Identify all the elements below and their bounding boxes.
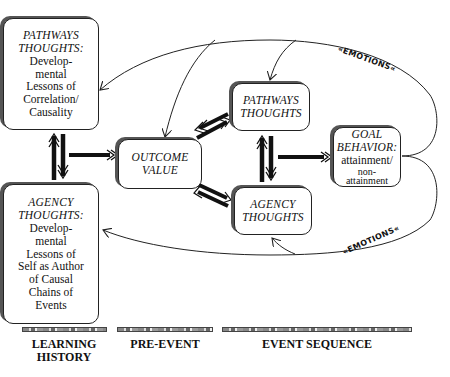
phase-label-pre-event: PRE-EVENT: [117, 338, 213, 351]
box-title: BEHAVIOR:: [337, 141, 398, 154]
pathways-thoughts-box: PATHWAYS THOUGHTS: [232, 83, 310, 131]
phase-label-line: HISTORY: [18, 351, 110, 364]
box-text: Lessons of: [26, 248, 76, 261]
phase-label-learning-history: LEARNING HISTORY: [18, 338, 110, 363]
learning-history-timeline-bar: [22, 327, 107, 332]
box-title: PATHWAYS: [243, 94, 299, 107]
box-title: VALUE: [142, 164, 178, 177]
box-title: THOUGHTS: [242, 211, 304, 224]
feedback-to-pathways: [270, 40, 296, 80]
agency-thoughts-box: AGENCY THOUGHTS: [234, 187, 312, 235]
box-text: attainment: [346, 176, 388, 186]
box-text: Lessons of: [26, 80, 76, 93]
pre-event-timeline-bar: [117, 327, 213, 332]
box-text: Events: [35, 299, 66, 312]
box-title: AGENCY: [250, 198, 295, 211]
box-text: mental: [35, 235, 66, 248]
hope-theory-diagram: PATHWAYS THOUGHTS: Develop- mental Lesso…: [0, 0, 450, 377]
pathways-thoughts-learning-box: PATHWAYS THOUGHTS: Develop- mental Lesso…: [3, 18, 99, 130]
box-title: THOUGHTS:: [18, 42, 84, 55]
feedback-to-agency: [272, 238, 295, 254]
box-title: AGENCY: [28, 196, 73, 209]
box-text: of Causal: [29, 273, 73, 286]
event-sequence-timeline-bar: [222, 327, 412, 332]
box-text: mental: [35, 68, 66, 81]
box-text: Self as Author: [18, 260, 84, 273]
box-text: attainment/: [341, 154, 393, 167]
box-title: THOUGHTS:: [18, 209, 84, 222]
agency-thoughts-learning-box: AGENCY THOUGHTS: Develop- mental Lessons…: [3, 184, 99, 324]
box-title: GOAL: [352, 128, 383, 141]
box-title: PATHWAYS: [23, 29, 79, 42]
box-text: Develop-: [30, 55, 73, 68]
box-text: Causality: [29, 106, 72, 119]
phase-label-event-sequence: EVENT SEQUENCE: [222, 338, 412, 351]
phase-label-line: LEARNING: [18, 338, 110, 351]
box-title: THOUGHTS: [240, 107, 302, 120]
box-title: OUTCOME: [132, 151, 189, 164]
box-text: Correlation/: [23, 93, 79, 106]
box-text: Develop-: [30, 222, 73, 235]
goal-behavior-box: GOAL BEHAVIOR: attainment/ non- attainme…: [333, 127, 401, 187]
box-text: Chains of: [29, 286, 73, 299]
outcome-value-box: OUTCOME VALUE: [118, 139, 202, 189]
